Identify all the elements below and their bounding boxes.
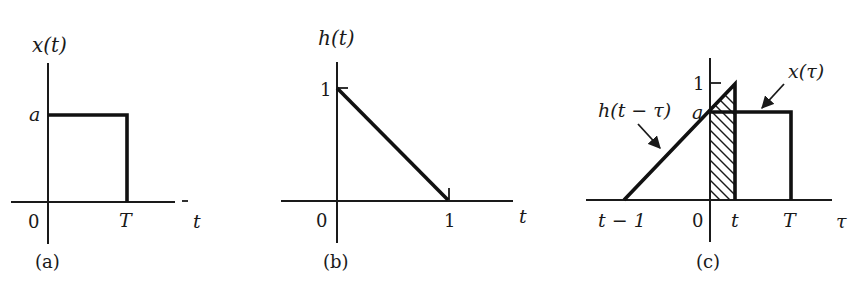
panel-a: x(t) a 0 T t (a) bbox=[11, 33, 201, 272]
y-label: h(t) bbox=[318, 26, 355, 50]
x-label: τ bbox=[836, 210, 847, 232]
y-tick-label: 1 bbox=[693, 73, 704, 94]
x-tau-signal bbox=[710, 112, 791, 200]
x-label: t bbox=[519, 205, 527, 227]
x-label: t bbox=[193, 210, 201, 232]
caption: (b) bbox=[323, 251, 349, 272]
y-tick-label: 1 bbox=[320, 79, 331, 100]
pulse-signal bbox=[48, 115, 127, 202]
level-label: a bbox=[29, 103, 40, 125]
origin-label: 0 bbox=[316, 210, 327, 231]
t-label: t bbox=[731, 209, 739, 231]
annotation-x: x(τ) bbox=[788, 60, 824, 82]
end-label: T bbox=[783, 209, 797, 231]
ramp-start-label: t − 1 bbox=[598, 209, 646, 231]
h-annotation-arrow bbox=[638, 124, 660, 148]
origin-label: 0 bbox=[28, 211, 39, 232]
level-label: a bbox=[692, 101, 703, 123]
ramp-signal bbox=[337, 88, 448, 200]
x-annotation-arrow bbox=[762, 84, 784, 108]
end-label: T bbox=[119, 209, 133, 231]
x-tick-label: 1 bbox=[444, 210, 455, 231]
panel-b: h(t) 1 0 1 t (b) bbox=[281, 26, 527, 272]
caption: (c) bbox=[696, 251, 720, 272]
annotation-h: h(t − τ) bbox=[598, 99, 671, 121]
origin-label: 0 bbox=[692, 210, 703, 231]
convolution-figure: x(t) a 0 T t (a) h(t) 1 0 1 t (b) bbox=[0, 0, 863, 292]
y-label: x(t) bbox=[32, 33, 67, 57]
caption: (a) bbox=[35, 251, 60, 272]
panel-c: h(t − τ) x(τ) 1 a t − 1 0 t T τ (c) bbox=[586, 58, 847, 272]
